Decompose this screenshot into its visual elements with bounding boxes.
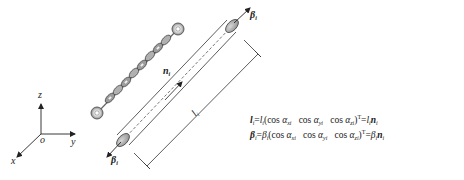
beta-top-label: βi (250, 10, 257, 21)
subscript: yi (319, 120, 323, 126)
cos-text: cos (303, 130, 318, 140)
x-axis-label: x (11, 156, 15, 166)
equation-length: li=li(cos αxi cos αyi cos αzi)T=lini (250, 114, 378, 126)
subscript: i (376, 120, 378, 126)
cable-element-diagram (0, 0, 464, 180)
subscript: yi (323, 135, 327, 141)
cos-text: cos (335, 130, 350, 140)
subscript: i (116, 160, 118, 166)
paren-open-cos: (cos (268, 130, 286, 140)
cos-text: cos (330, 115, 345, 125)
subscript: xi (292, 135, 296, 141)
equation-force: βi=βi(cos αxi cos αyi cos αzi)T=βini (250, 129, 384, 141)
beta-bottom-label: βi (111, 155, 118, 166)
y-axis-label: y (71, 137, 75, 147)
origin-label: o (40, 135, 45, 145)
subscript: i (169, 71, 171, 77)
subscript: i (382, 135, 384, 141)
cylinder-cap-top (223, 17, 241, 35)
subscript: xi (287, 120, 291, 126)
chain-direction-label: ni (163, 66, 170, 77)
z-axis-label: z (38, 90, 42, 100)
cable-cylinder (114, 17, 241, 149)
direction-arrow (165, 82, 182, 100)
beta-arrow-top (234, 8, 250, 23)
coordinate-axes (17, 104, 75, 157)
subscript: i (255, 15, 257, 21)
paren-open-cos: (cos (264, 115, 282, 125)
cos-text: cos (299, 115, 314, 125)
length-dimension (134, 40, 261, 169)
x-axis (17, 134, 41, 157)
